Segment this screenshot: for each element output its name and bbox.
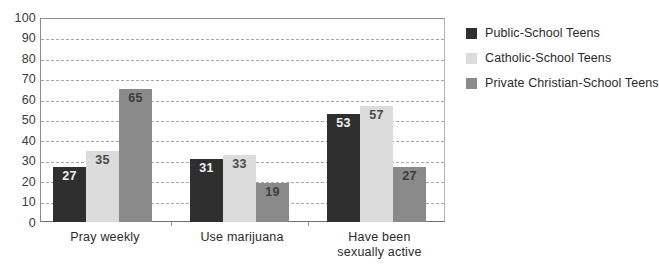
y-tick-100: 100 bbox=[2, 12, 36, 24]
x-axis-labels: Pray weekly Use marijuana Have been sexu… bbox=[40, 226, 445, 270]
x-tick-label-pray-weekly: Pray weekly bbox=[40, 230, 170, 245]
legend-swatch-icon bbox=[466, 28, 477, 39]
y-tick-70: 70 bbox=[2, 73, 36, 85]
y-tick-30: 30 bbox=[2, 155, 36, 167]
x-tick-mark-1 bbox=[171, 221, 172, 226]
bar-public-school-pray-weekly[interactable]: 27 bbox=[53, 167, 86, 222]
legend-item-label: Catholic-School Teens bbox=[485, 51, 611, 65]
y-tick-50: 50 bbox=[2, 114, 36, 126]
bar-private-christian-pray-weekly[interactable]: 65 bbox=[119, 89, 152, 222]
legend-swatch-icon bbox=[466, 53, 477, 64]
legend-item-label: Private Christian-School Teens bbox=[485, 76, 659, 90]
bar-value-label: 35 bbox=[95, 151, 110, 167]
bar-value-label: 65 bbox=[128, 89, 143, 105]
bar-private-christian-use-marijuana[interactable]: 19 bbox=[256, 183, 289, 222]
bar-catholic-school-use-marijuana[interactable]: 33 bbox=[223, 155, 256, 222]
legend-item-private-christian-school-teens[interactable]: Private Christian-School Teens bbox=[466, 76, 656, 90]
legend-swatch-icon bbox=[466, 78, 477, 89]
y-tick-10: 10 bbox=[2, 196, 36, 208]
y-tick-80: 80 bbox=[2, 53, 36, 65]
bar-value-label: 31 bbox=[199, 159, 214, 175]
bar-group-sexually-active: 53 57 27 bbox=[327, 18, 426, 222]
y-tick-20: 20 bbox=[2, 176, 36, 188]
legend-item-catholic-school-teens[interactable]: Catholic-School Teens bbox=[466, 51, 656, 65]
bar-catholic-school-pray-weekly[interactable]: 35 bbox=[86, 151, 119, 222]
x-tick-label-line1: Pray weekly bbox=[70, 230, 140, 244]
y-tick-0: 0 bbox=[2, 217, 36, 229]
bar-value-label: 53 bbox=[336, 114, 351, 130]
y-tick-60: 60 bbox=[2, 94, 36, 106]
bar-value-label: 19 bbox=[265, 183, 280, 199]
bar-public-school-sexually-active[interactable]: 53 bbox=[327, 114, 360, 222]
bar-private-christian-sexually-active[interactable]: 27 bbox=[393, 167, 426, 222]
bar-value-label: 27 bbox=[402, 167, 417, 183]
bar-group-use-marijuana: 31 33 19 bbox=[190, 18, 289, 222]
x-tick-label-use-marijuana: Use marijuana bbox=[177, 230, 307, 245]
bar-value-label: 57 bbox=[369, 106, 384, 122]
y-tick-90: 90 bbox=[2, 32, 36, 44]
bar-value-label: 27 bbox=[62, 167, 77, 183]
bar-group-pray-weekly: 27 35 65 bbox=[53, 18, 152, 222]
bar-value-label: 33 bbox=[232, 155, 247, 171]
x-tick-label-line1: Use marijuana bbox=[200, 230, 283, 244]
bar-public-school-use-marijuana[interactable]: 31 bbox=[190, 159, 223, 222]
x-tick-label-sexually-active: Have been sexually active bbox=[314, 230, 445, 260]
x-tick-label-line2: sexually active bbox=[314, 245, 445, 260]
bar-catholic-school-sexually-active[interactable]: 57 bbox=[360, 106, 393, 222]
x-tick-mark-2 bbox=[308, 221, 309, 226]
y-tick-40: 40 bbox=[2, 135, 36, 147]
y-axis-labels: 100 90 80 70 60 50 40 30 20 10 0 bbox=[0, 0, 36, 240]
legend: Public-School Teens Catholic-School Teen… bbox=[466, 26, 656, 101]
legend-item-public-school-teens[interactable]: Public-School Teens bbox=[466, 26, 656, 40]
legend-item-label: Public-School Teens bbox=[485, 26, 600, 40]
x-tick-label-line1: Have been bbox=[314, 230, 445, 245]
bar-groups: 27 35 65 31 33 19 53 57 bbox=[40, 18, 445, 222]
